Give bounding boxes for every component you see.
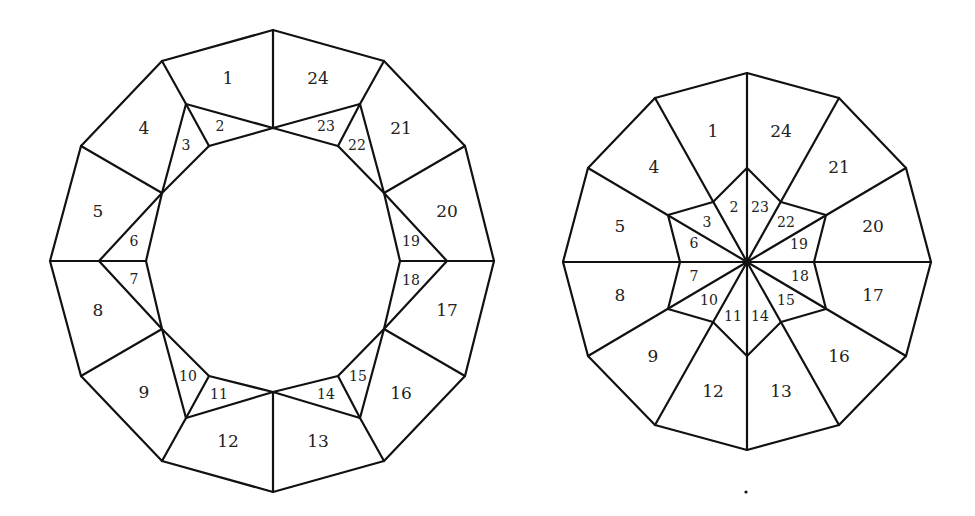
center-vertex [744,259,751,266]
region-label: 6 [130,233,139,249]
region-label: 4 [649,157,660,177]
edge-line [81,146,162,193]
region-label: 24 [770,121,792,141]
edge-line [81,329,162,376]
region-label: 13 [307,431,329,451]
diagram-canvas: 124223322421520619718817916101511141213 … [0,0,975,516]
edge-line [384,146,465,193]
region-label: 13 [770,381,792,401]
edge-line [146,128,400,392]
region-label: 23 [751,199,769,215]
region-label: 22 [348,137,366,153]
edge-line [384,329,465,376]
region-label: 22 [777,214,795,230]
region-label: 16 [828,346,850,366]
region-label: 15 [777,292,795,308]
region-label: 19 [402,233,420,249]
region-label: 9 [648,346,659,366]
edge-line [162,61,186,104]
region-label: 10 [700,292,718,308]
region-label: 2 [730,199,739,215]
region-label: 10 [179,368,197,384]
region-label: 21 [390,118,412,138]
region-label: 9 [139,382,150,402]
region-label: 11 [210,386,228,402]
region-label: 14 [751,308,769,324]
region-label: 14 [317,386,335,402]
edge-line [162,418,186,461]
region-label: 16 [390,383,412,403]
region-label: 15 [349,368,367,384]
region-label: 3 [703,214,712,230]
region-label: 18 [402,272,420,288]
ring-dodecagon-figure: 124223322421520619718817916101511141213 [50,30,494,492]
region-label: 3 [182,137,191,153]
region-label: 4 [139,118,150,138]
region-label: 17 [436,300,458,320]
region-label: 18 [791,268,809,284]
region-label: 21 [828,157,850,177]
region-label: 11 [724,308,742,324]
region-label: 20 [862,216,884,236]
region-label: 23 [317,118,335,134]
region-label: 2 [216,118,225,134]
region-label: 20 [436,201,458,221]
dodecagon-partition-diagram: 124223322421520619718817916101511141213 … [0,0,975,516]
region-label: 24 [307,68,329,88]
region-label: 19 [790,236,808,252]
region-label: 12 [702,381,724,401]
region-label: 7 [130,271,139,287]
region-label: 5 [93,201,104,221]
edge-line [360,418,384,461]
edge-line [360,61,384,104]
region-label: 17 [862,285,884,305]
region-label: 12 [217,431,239,451]
region-label: 8 [615,285,626,305]
region-label: 5 [615,216,626,236]
star-dodecagon-figure: 124223322421520619718817101511149161213 [563,73,931,450]
region-label: 1 [708,121,719,141]
region-label: 7 [690,268,699,284]
region-label: 1 [223,68,234,88]
region-label: 6 [690,235,699,251]
region-label: 8 [93,300,104,320]
stray-dot [744,490,747,493]
